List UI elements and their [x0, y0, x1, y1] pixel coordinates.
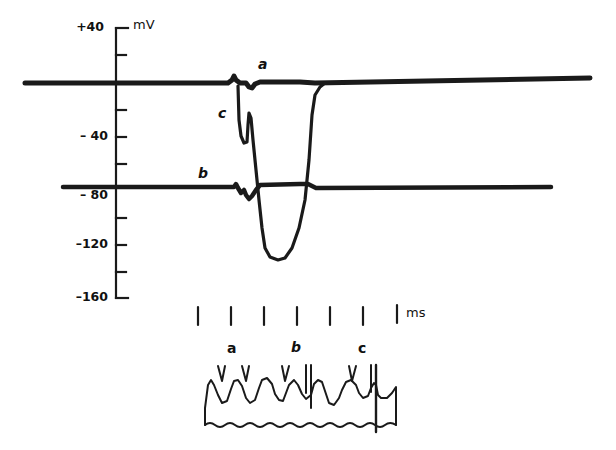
trace-c	[238, 83, 325, 260]
y-tick-label-plus40: +40	[44, 21, 104, 34]
trace-c-label: c	[218, 106, 226, 120]
membrane-potential-figure	[0, 0, 616, 450]
y-tick-label-minus120: –120	[48, 238, 108, 251]
trace-a-label: a	[258, 57, 267, 71]
inset-marker-a: a	[227, 341, 236, 355]
inset-stimulus-record	[205, 365, 396, 432]
time-scale-marks	[198, 305, 397, 325]
y-tick-label-minus160: –160	[48, 291, 108, 304]
trace-b-label: b	[198, 166, 208, 180]
y-tick-label-minus40: – 40	[48, 130, 108, 143]
inset-marker-b: b	[291, 340, 301, 354]
inset-marker-c: c	[358, 341, 366, 355]
trace-a	[25, 76, 590, 88]
y-tick-label-minus80: – 80	[48, 189, 108, 202]
y-axis	[116, 28, 128, 298]
y-axis-unit-label: mV	[133, 18, 155, 31]
time-unit-label: ms	[406, 306, 425, 319]
